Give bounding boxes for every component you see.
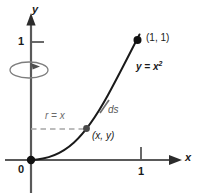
xy-point-marker [83, 125, 90, 132]
x-axis-arrowhead [169, 155, 182, 165]
curve-equation-label: y = x2 [136, 60, 162, 72]
xy-coordinate-label: (x, y) [92, 131, 114, 141]
revolution-ellipse [10, 62, 48, 78]
y-axis-tick-label-1: 1 [18, 36, 24, 47]
parabola-curve [31, 35, 140, 161]
figure-canvas [0, 0, 197, 193]
x-axis-label: x [185, 152, 191, 163]
y-axis-label: y [32, 4, 38, 15]
rotation-arrowhead-icon [32, 63, 41, 69]
curve-equation-exponent: 2 [159, 60, 163, 67]
arc-element-label: ds [108, 105, 119, 115]
x-axis-tick-label-1: 1 [138, 166, 144, 177]
origin-point-marker [27, 156, 35, 164]
endpoint-point-marker [134, 36, 142, 44]
origin-label: 0 [18, 164, 24, 175]
endpoint-coordinate-label: (1, 1) [146, 33, 169, 43]
parabola-revolution-figure: y x 1 1 0 (1, 1) y = x2 ds r = x (x, y) [0, 0, 197, 193]
curve-equation-base: y = x [136, 61, 159, 72]
radius-label: r = x [45, 111, 65, 121]
